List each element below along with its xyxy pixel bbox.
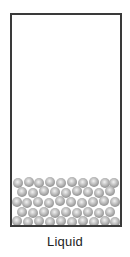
liquid-particle: [72, 186, 82, 196]
liquid-particle: [12, 216, 22, 226]
liquid-particle: [23, 217, 33, 227]
liquid-particle: [45, 177, 55, 187]
state-label: Liquid: [0, 234, 130, 249]
liquid-particle: [17, 187, 27, 197]
liquid-particle: [78, 216, 88, 226]
liquid-particle: [56, 178, 66, 188]
liquid-particle: [89, 177, 99, 187]
liquid-particle: [110, 197, 120, 207]
liquid-particle: [105, 186, 115, 196]
liquid-particle: [83, 187, 93, 197]
liquid-particle: [100, 216, 110, 226]
liquid-particle: [89, 217, 99, 227]
liquid-particle: [34, 216, 44, 226]
liquid-particle: [110, 217, 120, 227]
liquid-particle: [33, 197, 43, 207]
liquid-particle: [88, 197, 98, 207]
liquid-particle: [66, 197, 76, 207]
liquid-particle: [67, 217, 77, 227]
container-box: [10, 13, 122, 227]
liquid-particle: [99, 196, 109, 206]
liquid-particle: [24, 177, 34, 187]
liquid-particle: [55, 196, 65, 206]
liquid-particle: [12, 197, 22, 207]
liquid-particle: [39, 186, 49, 196]
liquid-particle: [45, 217, 55, 227]
liquid-particle: [56, 216, 66, 226]
